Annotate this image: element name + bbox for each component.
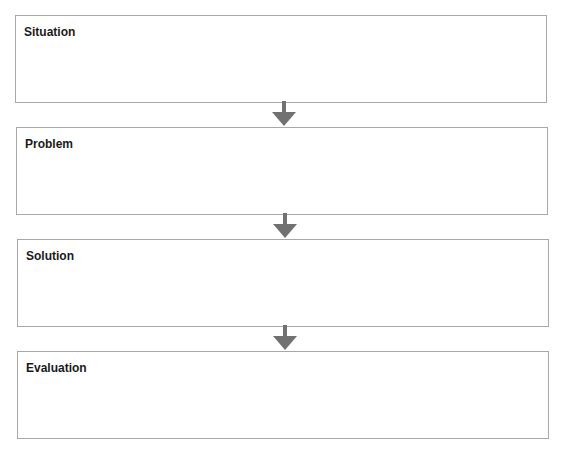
arrow-down-icon <box>272 325 298 351</box>
step-box-problem: Problem <box>16 127 548 215</box>
arrow-down-icon <box>271 101 297 127</box>
step-label: Situation <box>24 25 75 39</box>
step-label: Evaluation <box>26 361 87 375</box>
step-box-solution: Solution <box>17 239 549 327</box>
step-box-situation: Situation <box>15 15 547 103</box>
step-box-evaluation: Evaluation <box>17 351 549 439</box>
step-label: Problem <box>25 137 73 151</box>
arrow-down-icon <box>272 213 298 239</box>
step-label: Solution <box>26 249 74 263</box>
